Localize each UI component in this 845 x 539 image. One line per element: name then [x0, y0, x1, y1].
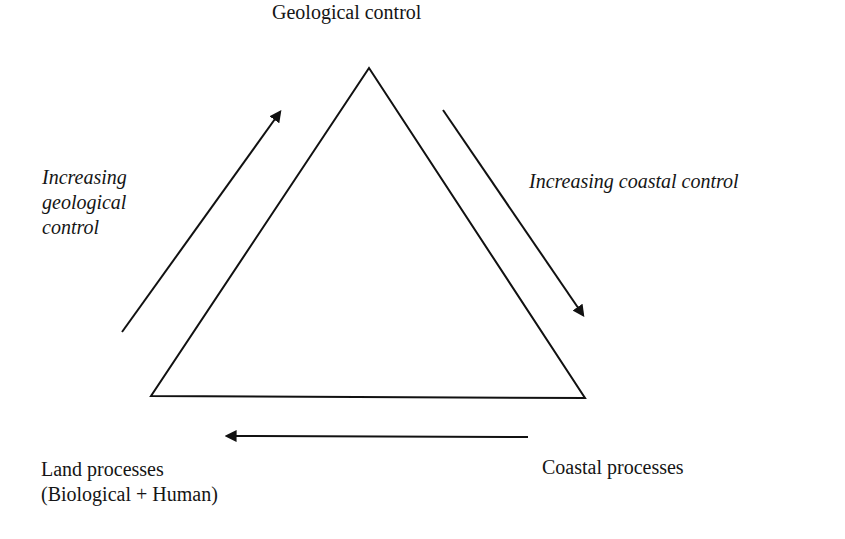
vertex-label-land-processes: Land processes (Biological + Human): [41, 457, 218, 507]
vertex-label-coastal-processes: Coastal processes: [542, 455, 684, 480]
arrow-label-line: Increasing: [42, 165, 182, 190]
arrow-label-increasing-geological-control: Increasing geological control: [42, 165, 182, 240]
arrow-label-increasing-coastal-control: Increasing coastal control: [529, 169, 739, 194]
vertex-label-geological-control: Geological control: [272, 0, 421, 25]
arrow-label-line: control: [42, 215, 182, 240]
triangle: [151, 68, 585, 398]
arrow-label-line: geological: [42, 190, 182, 215]
vertex-label-line: Land processes: [41, 457, 218, 482]
arrow-bottom-leftward: [227, 436, 528, 437]
vertex-label-line: (Biological + Human): [41, 482, 218, 507]
